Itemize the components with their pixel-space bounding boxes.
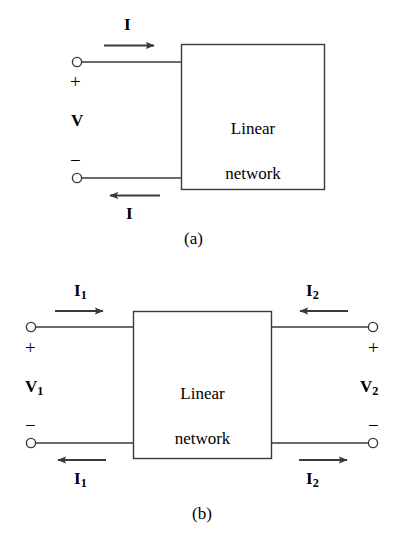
current-label-b-right-top-sub: 2 <box>313 288 319 302</box>
voltage-label-b-left-text: V <box>25 377 37 396</box>
voltage-label-b-left: V1 <box>25 378 43 398</box>
current-label-a-top: I <box>124 16 131 33</box>
linear-network-label-b-line1: Linear <box>133 383 272 405</box>
caption-b-text: (b) <box>192 504 212 523</box>
polarity-minus-a-text: − <box>70 150 81 171</box>
voltage-label-b-right-sub: 2 <box>372 384 378 398</box>
polarity-minus-b-right-text: − <box>368 415 379 436</box>
current-label-b-right-bottom-text: I <box>306 469 313 488</box>
linear-network-label-b-line2: network <box>133 428 272 450</box>
terminal-b-right-bottom <box>368 438 377 447</box>
current-label-b-right-top-text: I <box>306 281 313 300</box>
figure-root: Linear network I I + V − (a) Linear netw… <box>0 0 403 537</box>
polarity-minus-a: − <box>70 151 81 170</box>
terminal-b-right-top <box>368 322 377 331</box>
polarity-plus-b-right-text: + <box>368 337 379 358</box>
current-label-b-left-bottom: I1 <box>74 470 87 490</box>
current-label-b-left-top-text: I <box>74 281 81 300</box>
caption-b: (b) <box>192 505 212 522</box>
linear-network-label-b: Linear network <box>133 361 272 473</box>
current-label-b-left-top: I1 <box>74 282 87 302</box>
current-label-b-right-top: I2 <box>306 282 319 302</box>
caption-a: (a) <box>184 230 203 247</box>
polarity-plus-a-text: + <box>70 71 81 92</box>
voltage-label-a: V <box>71 112 83 129</box>
polarity-minus-b-left: − <box>25 416 36 435</box>
current-label-b-right-bottom: I2 <box>306 470 319 490</box>
polarity-plus-a: + <box>70 72 81 91</box>
caption-a-text: (a) <box>184 229 203 248</box>
polarity-plus-b-left: + <box>25 338 36 357</box>
current-label-b-left-bottom-text: I <box>74 469 81 488</box>
polarity-minus-b-left-text: − <box>25 415 36 436</box>
voltage-label-a-text: V <box>71 111 83 130</box>
linear-network-label-a-line1: Linear <box>181 118 325 140</box>
current-label-b-right-bottom-sub: 2 <box>313 476 319 490</box>
polarity-minus-b-right: − <box>368 416 379 435</box>
current-label-a-bottom-text: I <box>126 204 133 223</box>
voltage-label-b-left-sub: 1 <box>37 384 43 398</box>
current-label-a-top-text: I <box>124 15 131 34</box>
polarity-plus-b-right: + <box>368 338 379 357</box>
current-label-b-left-bottom-sub: 1 <box>81 476 87 490</box>
current-label-a-bottom: I <box>126 205 133 222</box>
polarity-plus-b-left-text: + <box>25 337 36 358</box>
terminal-a-bottom <box>72 173 81 182</box>
current-label-b-left-top-sub: 1 <box>81 288 87 302</box>
linear-network-label-a-line2: network <box>181 163 325 185</box>
terminal-a-top <box>72 57 81 66</box>
linear-network-label-a: Linear network <box>181 96 325 208</box>
voltage-label-b-right-text: V <box>360 377 372 396</box>
voltage-label-b-right: V2 <box>360 378 378 398</box>
terminal-b-left-top <box>26 322 35 331</box>
terminal-b-left-bottom <box>26 438 35 447</box>
